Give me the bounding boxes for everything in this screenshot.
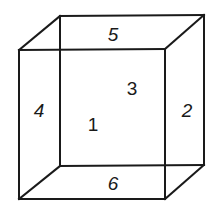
edge-top-left-depth — [19, 16, 60, 50]
face-label-front: 1 — [88, 114, 99, 135]
face-label-back: 3 — [127, 78, 138, 99]
edge-back-top — [60, 15, 204, 16]
face-label-bottom: 6 — [108, 173, 119, 194]
edge-back-bottom — [60, 165, 204, 166]
edge-front-top — [19, 49, 165, 50]
face-label-top: 5 — [108, 24, 119, 45]
edge-top-right-depth — [165, 15, 204, 49]
edge-bottom-right-depth — [165, 165, 204, 199]
face-label-right: 2 — [181, 100, 193, 121]
cube-diagram: 1 2 3 4 5 6 — [0, 0, 217, 210]
edge-bottom-left-depth — [19, 166, 60, 199]
face-label-left: 4 — [34, 100, 45, 121]
